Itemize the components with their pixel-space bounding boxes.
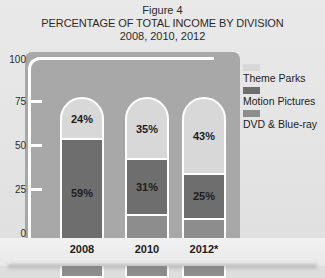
figure-container: Figure 4 PERCENTAGE OF TOTAL INCOME BY D… — [0, 0, 325, 278]
bar-2008-segment-motion-pictures: 59% — [60, 140, 104, 247]
y-tick-mark-75 — [28, 100, 42, 103]
bar-2010-segment-motion-pictures: 31% — [125, 160, 169, 216]
legend-item-motion-pictures[interactable]: Motion Pictures — [243, 87, 317, 107]
y-tick-mark-25 — [28, 188, 42, 191]
legend-swatch-dvd-bluray — [243, 110, 260, 117]
legend-item-dvd-bluray[interactable]: DVD & Blue-ray — [243, 110, 317, 130]
legend-item-theme-parks[interactable]: Theme Parks — [243, 64, 317, 84]
legend-swatch-motion-pictures — [243, 87, 260, 94]
y-tick-mark-50 — [28, 144, 42, 147]
y-tick-label-75: 75 — [0, 96, 26, 107]
bar-2008-segment-theme-parks: 24% — [60, 97, 104, 140]
x-axis-label-2010: 2010 — [117, 243, 177, 255]
y-tick-label-50: 50 — [0, 140, 26, 151]
y-tick-label-100: 100 — [0, 54, 26, 65]
drop-shadow — [8, 264, 317, 271]
x-axis-label-2012: 2012* — [174, 243, 234, 255]
legend-swatch-theme-parks — [243, 64, 260, 71]
bar-2010-segment-theme-parks: 35% — [125, 97, 169, 160]
legend-label-motion-pictures: Motion Pictures — [243, 95, 317, 107]
legend: Theme Parks Motion Pictures DVD & Blue-r… — [243, 64, 317, 133]
y-tick-label-25: 25 — [0, 184, 26, 195]
bar-2012-segment-theme-parks: 43% — [182, 97, 226, 175]
legend-label-theme-parks: Theme Parks — [243, 72, 317, 84]
legend-label-dvd-bluray: DVD & Blue-ray — [243, 118, 317, 130]
bar-2012-segment-motion-pictures: 25% — [182, 175, 226, 220]
x-axis-label-2008: 2008 — [52, 243, 112, 255]
